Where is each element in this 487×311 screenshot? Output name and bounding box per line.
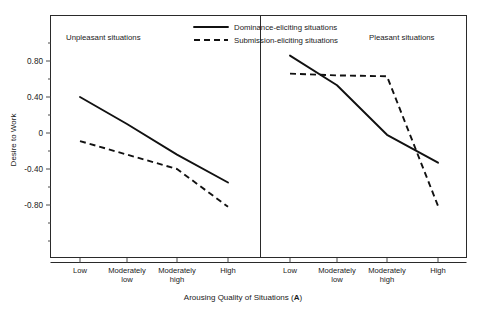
panel-label-right: Pleasant situations	[369, 33, 435, 42]
x-label-right-high: High	[430, 266, 446, 275]
x-label-left-low: Low	[73, 266, 87, 275]
chart-legend: Dominance-eliciting situations Submissio…	[194, 23, 338, 45]
y-tick-label-2: 0	[38, 129, 43, 138]
x-label-left-modlow-line2: low	[121, 275, 133, 284]
y-tick-label-3: -0.40	[24, 165, 43, 174]
right-panel-dominance-line	[290, 56, 438, 163]
x-label-right-modhigh-line2: high	[380, 275, 394, 284]
x-axis-ticks-left	[80, 258, 228, 263]
panel-label-left: Unpleasant situations	[66, 33, 141, 42]
legend-label-dashed: Submission-eliciting situations	[234, 36, 338, 45]
right-panel-submission-line	[290, 74, 438, 206]
legend-label-solid: Dominance-eliciting situations	[234, 23, 337, 32]
x-axis-ticks-right	[290, 258, 438, 263]
x-label-right-low: Low	[283, 266, 297, 275]
left-panel-dominance-line	[80, 97, 228, 183]
x-label-left-modhigh-line1: Moderately	[158, 266, 196, 275]
left-panel-submission-line	[80, 141, 228, 207]
y-axis-title: Desire to Work	[9, 113, 18, 167]
y-tick-label-0: 0.80	[27, 57, 43, 66]
y-axis-ticks	[46, 43, 51, 241]
x-axis-title-main: Arousing Quality of Situations (	[184, 293, 294, 302]
x-label-right-modhigh-line1: Moderately	[368, 266, 406, 275]
x-label-right-modlow-line2: low	[331, 275, 343, 284]
x-label-right-modlow-line1: Moderately	[318, 266, 356, 275]
plot-frame	[51, 16, 467, 258]
x-label-left-modhigh-line2: high	[170, 275, 184, 284]
y-tick-label-4: -0.80	[24, 201, 43, 210]
x-axis-title-tail: )	[299, 293, 302, 302]
x-label-left-high: High	[220, 266, 236, 275]
x-label-left-modlow-line1: Moderately	[108, 266, 146, 275]
chart-figure: 0.80 0.40 0 -0.40 -0.80 Desire to Work L…	[0, 0, 487, 311]
chart-svg: 0.80 0.40 0 -0.40 -0.80 Desire to Work L…	[0, 0, 487, 311]
x-axis-title: Arousing Quality of Situations (A)	[184, 293, 303, 302]
y-tick-label-1: 0.40	[27, 93, 43, 102]
